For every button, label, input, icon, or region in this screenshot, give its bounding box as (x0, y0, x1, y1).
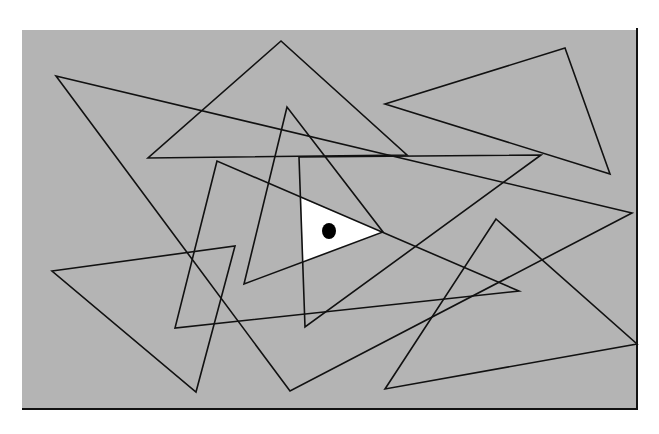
triangle-figure (0, 0, 659, 434)
black-dot (322, 223, 336, 239)
